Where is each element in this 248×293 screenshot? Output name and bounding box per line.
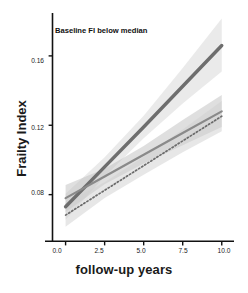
x-tick-label-3: 7.5 [170,247,196,254]
y-axis-title: Frailty Index [14,74,29,204]
confidence-bands [66,19,222,227]
y-tick-label-2: 0.08 [22,189,44,196]
plot-annotation: Baseline FI below median [55,26,147,35]
x-tick-label-2: 5.0 [128,247,154,254]
chart-figure: Baseline FI below median follow-up years… [0,0,248,293]
x-tick-label-4: 10.0 [211,247,237,254]
y-tick-label-1: 0.12 [22,124,44,131]
x-tick-label-0: 0.0 [44,247,70,254]
x-axis-title: follow-up years [0,262,248,277]
y-tick-label-0: 0.16 [22,57,44,64]
x-tick-label-1: 2.5 [86,247,112,254]
